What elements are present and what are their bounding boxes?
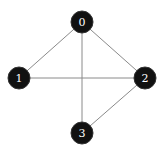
edge-2-3 xyxy=(82,78,145,133)
edge-0-2 xyxy=(82,22,145,78)
graph-diagram: 0123 xyxy=(0,0,167,149)
node-label: 3 xyxy=(79,127,86,140)
node-label: 1 xyxy=(16,72,23,85)
edges-group xyxy=(19,22,145,133)
edge-0-1 xyxy=(19,22,82,78)
node-label: 0 xyxy=(79,16,86,29)
node-3: 3 xyxy=(71,122,93,144)
node-2: 2 xyxy=(134,67,156,89)
node-label: 2 xyxy=(142,72,149,85)
node-1: 1 xyxy=(8,67,30,89)
node-0: 0 xyxy=(71,11,93,33)
